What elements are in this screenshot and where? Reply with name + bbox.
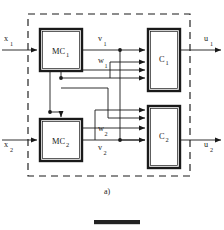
label-v1: v 1 [98,34,107,47]
label-w1-base: w [98,56,104,65]
block-mc1-label: MC [52,47,65,56]
label-v2-sub: 2 [104,149,107,156]
label-x1-sub: 1 [10,40,13,47]
label-v2-base: v [98,143,103,152]
label-v1-base: v [98,34,103,43]
label-u1: u 1 [204,34,213,47]
label-w1-sub: 1 [105,62,108,69]
label-u2-base: u [204,140,208,149]
block-c1[interactable]: C 1 [148,29,180,91]
junction-dot-fb-left [48,110,52,114]
block-c1-sub: 1 [166,59,169,66]
junction-dot-v1 [118,48,122,52]
label-x1-base: x [4,34,8,43]
block-mc1-sub: 1 [66,51,69,58]
label-w2: w 2 [98,124,108,137]
label-v2: v 2 [98,143,107,156]
label-w2-base: w [98,124,104,133]
label-w2-sub: 2 [105,130,108,137]
junction-dot-mc1-out [59,76,63,80]
label-x2-sub: 2 [10,146,13,153]
block-c2-label: C [159,132,165,141]
block-mc1[interactable]: MC 1 [40,29,82,71]
block-c2[interactable]: C 2 [148,106,180,168]
next-figure-bar [94,220,140,224]
block-c1-label: C [159,55,165,64]
label-u1-base: u [204,34,208,43]
label-x2-base: x [4,140,8,149]
junction-dot-v2 [118,138,122,142]
block-diagram: MC 1 MC 2 C 1 C 2 x 1 x 2 v 1 w [0,0,224,230]
label-u2: u 2 [204,140,213,153]
label-u2-sub: 2 [210,146,213,153]
label-v1-sub: 1 [104,40,107,47]
label-x2: x 2 [4,140,13,153]
label-w1: w 1 [98,56,108,69]
block-c2-sub: 2 [166,136,169,143]
block-mc2[interactable]: MC 2 [40,119,82,161]
block-mc2-sub: 2 [66,141,69,148]
block-mc2-label: MC [52,137,65,146]
label-u1-sub: 1 [210,40,213,47]
figure-caption: a) [104,187,111,196]
label-x1: x 1 [4,34,13,47]
